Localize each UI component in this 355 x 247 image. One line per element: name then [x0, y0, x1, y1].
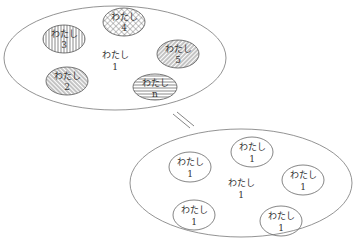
- member-ellipse-2: わたし 2: [46, 67, 88, 95]
- svg-text:1: 1: [249, 154, 255, 164]
- svg-text:5: 5: [175, 55, 181, 65]
- svg-text:わたし: わたし: [51, 29, 78, 39]
- equals-sign: [173, 112, 194, 128]
- member-ellipse-5: わたし 5: [157, 40, 199, 68]
- svg-text:わたし: わたし: [181, 205, 208, 215]
- member-ellipse-4: わたし 4: [103, 8, 145, 36]
- svg-text:わたし: わたし: [142, 78, 169, 88]
- svg-text:わたし: わたし: [54, 71, 81, 81]
- member-ellipse-n: わたし n: [133, 74, 177, 100]
- svg-text:わたし: わたし: [177, 157, 204, 167]
- bottom-group: わたし 1 わたし 1 わたし 1 わたし 1 わたし 1 わたし 1: [130, 129, 352, 237]
- svg-text:わたし: わたし: [111, 12, 138, 22]
- top-group: わたし 1 わたし 3 わたし 4 わたし 5 わたし 2 わたし n: [4, 6, 226, 110]
- svg-text:4: 4: [121, 23, 127, 33]
- svg-text:1: 1: [278, 223, 284, 233]
- bottom-member-2: わたし 1: [231, 137, 273, 167]
- bottom-member-4: わたし 1: [173, 200, 215, 230]
- svg-text:n: n: [152, 89, 158, 99]
- svg-text:1: 1: [187, 169, 193, 179]
- svg-text:1: 1: [238, 190, 244, 200]
- svg-text:わたし: わたし: [290, 170, 317, 180]
- svg-text:わたし: わたし: [268, 211, 295, 221]
- bottom-member-5: わたし 1: [260, 206, 302, 236]
- svg-text:3: 3: [61, 40, 67, 50]
- svg-text:2: 2: [64, 82, 70, 92]
- member-ellipse-3: わたし 3: [43, 25, 85, 53]
- bottom-member-3: わたし 1: [282, 165, 324, 195]
- svg-text:わたし: わたし: [239, 142, 266, 152]
- svg-text:わたし: わたし: [165, 44, 192, 54]
- top-center-number: 1: [112, 62, 118, 72]
- svg-text:1: 1: [300, 182, 306, 192]
- svg-text:1: 1: [191, 217, 197, 227]
- svg-text:わたし: わたし: [228, 178, 255, 188]
- bottom-member-1: わたし 1: [169, 152, 211, 182]
- top-center-label: わたし: [102, 50, 129, 60]
